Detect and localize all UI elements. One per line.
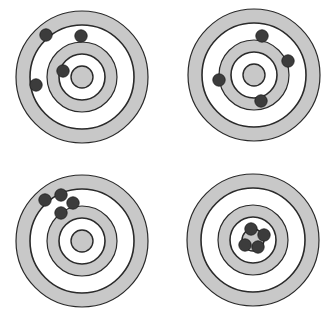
bullseye: [243, 64, 265, 86]
bullet-hole: [282, 55, 294, 67]
bullet-hole: [255, 95, 267, 107]
bullet-hole: [213, 74, 225, 86]
targets-diagram: [0, 0, 334, 309]
targets-group: [16, 9, 320, 307]
bullet-hole: [55, 207, 67, 219]
bullet-hole: [256, 30, 268, 42]
bullet-hole: [30, 79, 42, 91]
bullet-hole: [55, 189, 67, 201]
target-bottom-left: [16, 175, 148, 307]
bullet-hole: [67, 197, 79, 209]
bullet-hole: [258, 229, 270, 241]
bullet-hole: [245, 223, 257, 235]
target-top-left: [16, 11, 148, 143]
target-top-right: [188, 9, 320, 141]
bullet-hole: [57, 65, 69, 77]
bullet-hole: [239, 239, 251, 251]
bullet-hole: [40, 29, 52, 41]
bullseye: [71, 66, 93, 88]
bullet-hole: [252, 241, 264, 253]
bullet-hole: [75, 30, 87, 42]
bullet-hole: [39, 194, 51, 206]
target-bottom-right: [187, 174, 319, 306]
bullseye: [71, 230, 93, 252]
